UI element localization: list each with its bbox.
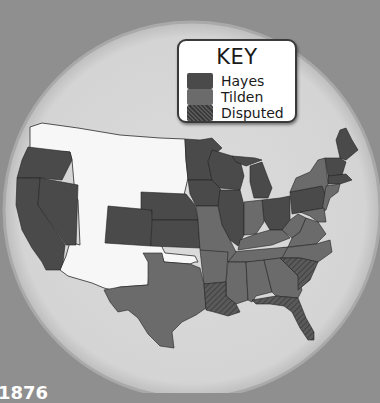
- key-item-disputed: Disputed: [187, 104, 284, 122]
- state-colorado: [105, 206, 152, 246]
- tilden-swatch: [187, 89, 213, 105]
- key-label: Disputed: [221, 105, 284, 121]
- map-year-title: 1876: [0, 382, 48, 403]
- key-title: KEY: [179, 45, 295, 69]
- disputed-swatch: [187, 105, 213, 121]
- state-kansas: [151, 220, 200, 248]
- state-arkansas: [200, 250, 228, 284]
- map-key: KEY Hayes Tilden Disputed: [177, 39, 297, 123]
- hayes-swatch: [187, 73, 213, 89]
- key-label: Tilden: [221, 89, 263, 105]
- state-mississippi: [226, 262, 248, 304]
- key-label: Hayes: [221, 73, 264, 89]
